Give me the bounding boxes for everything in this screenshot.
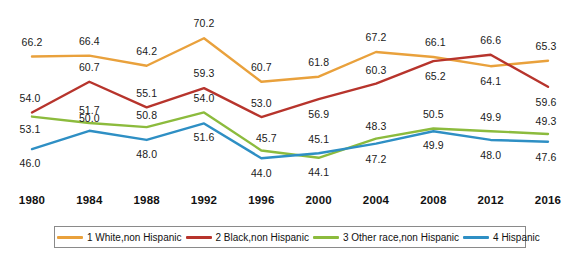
data-label: 49.9 bbox=[423, 139, 444, 151]
x-axis-tick-2000: 2000 bbox=[305, 194, 331, 206]
data-label: 60.7 bbox=[79, 61, 100, 73]
data-label: 60.7 bbox=[251, 61, 272, 73]
data-label: 44.1 bbox=[308, 166, 329, 178]
legend-item-1[interactable]: 1 White,non Hispanic bbox=[55, 232, 184, 243]
legend-item-label: 2 Black,non Hispanic bbox=[216, 232, 309, 243]
series-svg bbox=[0, 0, 581, 190]
legend-line-swatch-icon bbox=[463, 236, 489, 239]
data-label: 48.0 bbox=[480, 149, 501, 161]
data-label: 51.6 bbox=[194, 131, 215, 143]
data-label: 59.3 bbox=[194, 67, 215, 79]
line-chart: 66.266.464.270.260.761.867.266.164.165.3… bbox=[0, 0, 581, 258]
data-label: 49.3 bbox=[536, 115, 557, 127]
data-label: 48.3 bbox=[366, 120, 387, 132]
data-label: 44.0 bbox=[251, 167, 272, 179]
x-axis-tick-labels: 1980198419881992199620002004200820122016 bbox=[0, 190, 581, 218]
data-label: 53.1 bbox=[20, 123, 41, 135]
data-label: 47.2 bbox=[366, 153, 387, 165]
data-label: 64.1 bbox=[480, 75, 501, 87]
data-label: 65.3 bbox=[536, 40, 557, 52]
data-label: 54.0 bbox=[194, 92, 215, 104]
data-label: 59.6 bbox=[536, 96, 557, 108]
legend-line-swatch-icon bbox=[313, 236, 339, 239]
data-label: 54.0 bbox=[20, 92, 41, 104]
data-label: 64.2 bbox=[136, 45, 157, 57]
data-label: 67.2 bbox=[366, 31, 387, 43]
data-label: 70.2 bbox=[194, 17, 215, 29]
x-axis-tick-2012: 2012 bbox=[477, 194, 503, 206]
data-label: 61.8 bbox=[308, 56, 329, 68]
data-label: 50.0 bbox=[79, 112, 100, 124]
x-axis-tick-2008: 2008 bbox=[420, 194, 446, 206]
data-label: 53.0 bbox=[251, 97, 272, 109]
data-label: 66.4 bbox=[79, 35, 100, 47]
legend-line-swatch-icon bbox=[57, 236, 83, 239]
chart-legend: 1 White,non Hispanic2 Black,non Hispanic… bbox=[54, 226, 526, 248]
x-axis-tick-1988: 1988 bbox=[133, 194, 159, 206]
x-axis-tick-1980: 1980 bbox=[19, 194, 45, 206]
legend-item-4[interactable]: 4 Hispanic bbox=[461, 232, 542, 243]
data-label: 49.9 bbox=[480, 111, 501, 123]
legend-item-label: 3 Other race,non Hispanic bbox=[343, 232, 459, 243]
x-axis-tick-2004: 2004 bbox=[363, 194, 389, 206]
data-label: 56.9 bbox=[308, 108, 329, 120]
legend-item-3[interactable]: 3 Other race,non Hispanic bbox=[311, 232, 461, 243]
series-group bbox=[32, 38, 548, 158]
data-label: 48.0 bbox=[136, 148, 157, 160]
plot-area: 66.266.464.270.260.761.867.266.164.165.3… bbox=[0, 0, 581, 190]
data-label: 60.3 bbox=[366, 64, 387, 76]
data-label: 66.1 bbox=[425, 36, 446, 48]
x-axis-tick-1992: 1992 bbox=[191, 194, 217, 206]
data-label: 66.6 bbox=[480, 34, 501, 46]
data-label: 66.2 bbox=[22, 36, 43, 48]
data-label: 65.2 bbox=[425, 70, 446, 82]
data-label: 46.0 bbox=[20, 157, 41, 169]
data-label: 45.1 bbox=[308, 133, 329, 145]
legend-item-2[interactable]: 2 Black,non Hispanic bbox=[184, 232, 311, 243]
data-label: 47.6 bbox=[536, 151, 557, 163]
x-axis-tick-1996: 1996 bbox=[248, 194, 274, 206]
x-axis-tick-1984: 1984 bbox=[76, 194, 102, 206]
data-label: 50.5 bbox=[423, 108, 444, 120]
data-label: 55.1 bbox=[136, 87, 157, 99]
legend-item-label: 1 White,non Hispanic bbox=[87, 232, 182, 243]
data-label: 50.8 bbox=[136, 109, 157, 121]
legend-line-swatch-icon bbox=[186, 236, 212, 239]
data-label: 45.7 bbox=[256, 132, 277, 144]
series-line-1 bbox=[32, 38, 548, 82]
x-axis-tick-2016: 2016 bbox=[535, 194, 561, 206]
legend-item-label: 4 Hispanic bbox=[493, 232, 540, 243]
